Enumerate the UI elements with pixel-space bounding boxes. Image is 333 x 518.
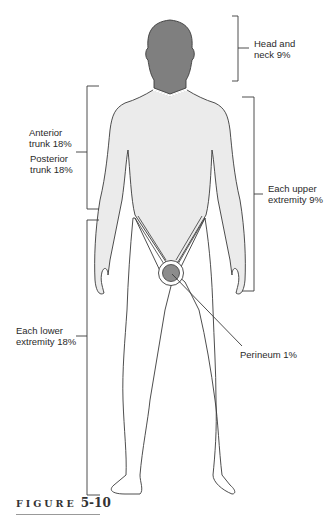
label-upper-extremity: Each upper extremity 9%	[268, 183, 323, 205]
head-and-neck	[146, 20, 195, 96]
trunk-bracket	[76, 86, 99, 209]
figure-caption: FIGURE5-10	[16, 496, 111, 510]
head-neck-bracket	[232, 16, 249, 81]
label-head-neck: Head and neck 9%	[254, 38, 295, 60]
body-diagram	[0, 0, 333, 518]
label-posterior-trunk: Posterior trunk 18%	[30, 153, 73, 175]
caption-rule	[16, 514, 100, 515]
label-perineum: Perineum 1%	[240, 349, 297, 360]
label-lower-extremity: Each lower extremity 18%	[16, 325, 76, 347]
caption-word: FIGURE	[16, 498, 77, 509]
label-anterior-trunk: Anterior trunk 18%	[29, 127, 72, 149]
caption-number: 5-10	[81, 496, 111, 510]
